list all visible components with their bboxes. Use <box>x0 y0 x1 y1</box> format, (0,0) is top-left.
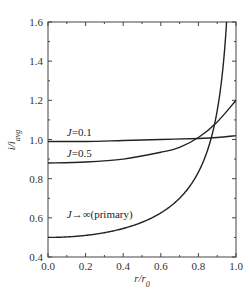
curve-label: J→∞(primary) <box>67 208 133 221</box>
x-tick-label: 0.8 <box>192 260 206 272</box>
x-tick-label: 0.4 <box>116 260 130 272</box>
axis-ticks: 0.00.20.40.60.81.00.40.60.81.01.21.41.6 <box>29 16 243 272</box>
y-tick-label: 1.0 <box>29 134 43 146</box>
x-tick-label: 0.2 <box>79 260 93 272</box>
y-tick-label: 1.2 <box>29 94 43 106</box>
x-axis-label: r/r0 <box>134 272 150 289</box>
y-tick-label: 0.4 <box>29 251 43 263</box>
x-tick-label: 0.0 <box>41 260 55 272</box>
y-tick-label: 0.8 <box>29 173 43 185</box>
line-chart: 0.00.20.40.60.81.00.40.60.81.01.21.41.6 … <box>0 0 252 292</box>
x-tick-label: 1.0 <box>229 260 243 272</box>
y-tick-label: 1.4 <box>29 55 43 67</box>
y-tick-label: 1.6 <box>29 16 43 28</box>
y-axis-label: i/iavg <box>5 130 22 151</box>
y-tick-label: 0.6 <box>29 212 43 224</box>
curve-label: J=0.5 <box>67 147 92 159</box>
x-tick-label: 0.6 <box>154 260 168 272</box>
curve-label: J=0.1 <box>67 126 92 138</box>
